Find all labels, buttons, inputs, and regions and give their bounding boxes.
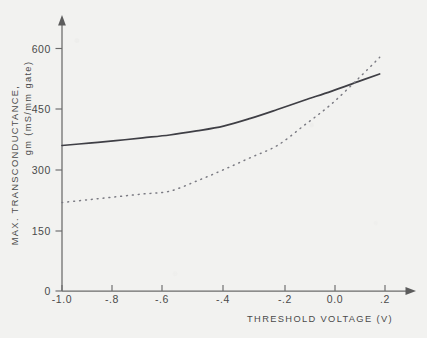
x-axis-ticks bbox=[62, 285, 385, 291]
x-tick-label-neg0-2: -.2 bbox=[278, 293, 292, 305]
axis-group bbox=[58, 15, 416, 295]
solid-curve-path bbox=[62, 74, 380, 146]
x-tick-label-neg0-4: -.4 bbox=[216, 293, 230, 305]
x-axis-tick-labels: -1.0 -.8 -.6 -.4 -.2 0.0 .2 bbox=[52, 293, 390, 305]
y-tick-label-150: 150 bbox=[32, 225, 51, 237]
y-tick-label-600: 600 bbox=[32, 43, 51, 55]
x-tick-label-neg0-8: -.8 bbox=[105, 293, 119, 305]
x-tick-label-0-0: 0.0 bbox=[327, 293, 343, 305]
y-axis-title-line1: MAX. TRANSCONDUCTANCE, bbox=[10, 85, 20, 246]
transconductance-vs-threshold-voltage-chart: 600 450 300 150 0 -1.0 -.8 -.6 -.4 -.2 0… bbox=[0, 0, 427, 338]
y-axis-title-line2: gm (mS/mm gate) bbox=[23, 61, 33, 156]
x-tick-label-neg1-0: -1.0 bbox=[52, 293, 73, 305]
dotted-curve-path bbox=[62, 57, 380, 202]
x-tick-label-neg0-6: -.6 bbox=[155, 293, 169, 305]
y-axis-tick-labels: 600 450 300 150 0 bbox=[32, 43, 51, 298]
chart-figure: 600 450 300 150 0 -1.0 -.8 -.6 -.4 -.2 0… bbox=[0, 0, 427, 338]
x-tick-label-0-2: .2 bbox=[380, 293, 390, 305]
x-axis-title: THRESHOLD VOLTAGE (V) bbox=[247, 314, 393, 324]
x-axis-arrowhead bbox=[406, 287, 417, 295]
y-axis-ticks bbox=[56, 49, 63, 292]
y-tick-label-300: 300 bbox=[32, 164, 51, 176]
y-tick-label-450: 450 bbox=[32, 103, 51, 115]
y-tick-label-0: 0 bbox=[45, 285, 51, 297]
y-axis-arrowhead bbox=[58, 15, 66, 26]
